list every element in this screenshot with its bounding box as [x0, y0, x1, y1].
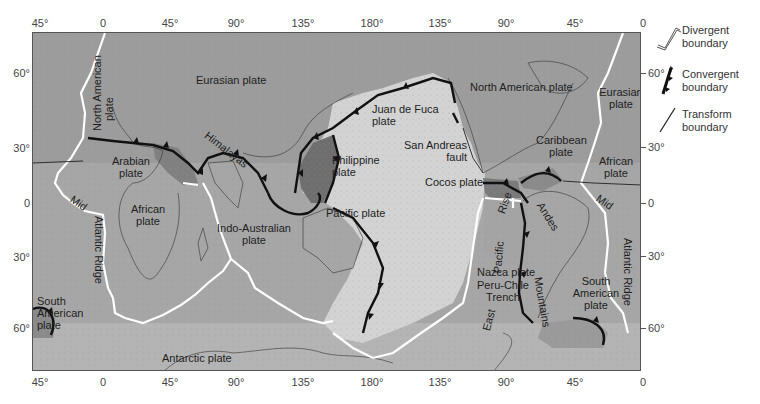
lon-tick: 45° [567, 17, 584, 29]
lat-tick: 30° [648, 250, 665, 262]
legend-transform: Transformboundary [655, 104, 760, 138]
lon-tick: 135° [429, 376, 452, 388]
transform-boundary-icon [655, 104, 681, 136]
label-arabian-plate: Arabianplate [106, 155, 156, 179]
lon-tick: 0 [640, 376, 646, 388]
lon-tick: 45° [32, 17, 49, 29]
label-north-american-plate-left: North American [91, 55, 103, 131]
lat-tick: 60° [648, 322, 665, 334]
label-south-american-plate-left: SouthAmericanplate [37, 295, 83, 331]
lat-tick: 0 [2, 197, 30, 209]
label-juan-de-fuca-plate: Juan de Fucaplate [372, 103, 439, 127]
label-san-andreas-fault: San Andreasfault [397, 139, 467, 163]
label-peru-chile-trench: Peru-ChileTrench [473, 279, 533, 303]
lat-tick: 30° [2, 142, 30, 154]
lat-tick: 60° [2, 67, 30, 79]
lon-tick: 90° [228, 17, 245, 29]
divergent-boundary-icon [655, 24, 681, 54]
lat-tick-mark [641, 256, 646, 257]
lat-tick-mark [641, 328, 646, 329]
legend-divergent: Divergentboundary [655, 24, 760, 58]
label-eurasian-plate: Eurasian plate [196, 74, 266, 86]
lon-tick: 90° [498, 17, 515, 29]
label-african-plate-left: Africanplate [123, 203, 173, 227]
lon-tick: 90° [228, 376, 245, 388]
label-pacific-plate: Pacific plate [326, 207, 385, 219]
lat-tick: 30° [648, 141, 665, 153]
label-atlantic-ridge-right: Atlantic Ridge [622, 238, 634, 306]
legend-transform-text: Transformboundary [682, 108, 732, 133]
lon-tick: 0 [100, 376, 106, 388]
lon-tick: 180° [361, 17, 384, 29]
label-eurasian-plate-right: Eurasianplate [596, 86, 641, 110]
legend-divergent-text: Divergentboundary [682, 24, 729, 49]
lat-tick: 60° [2, 322, 30, 334]
lat-tick: 0 [648, 197, 654, 209]
label-african-plate-right: Africanplate [595, 155, 637, 179]
lon-tick: 45° [32, 376, 49, 388]
lon-tick: 180° [361, 376, 384, 388]
tectonic-plate-map: North American plate Eurasian plate Arab… [32, 32, 641, 371]
label-philippine-plate: Philippineplate [332, 154, 380, 178]
lon-tick: 45° [162, 376, 179, 388]
label-nazca-plate: Nazca plate [477, 266, 535, 278]
lon-tick: 45° [162, 17, 179, 29]
label-atlantic-ridge-left: Atlantic Ridge [93, 216, 105, 284]
lon-tick: 0 [640, 17, 646, 29]
lon-tick: 90° [498, 376, 515, 388]
lat-tick-mark [641, 147, 646, 148]
lon-tick: 135° [429, 17, 452, 29]
legend-convergent: Convergentboundary [655, 64, 760, 98]
label-cocos-plate: Cocos plate [425, 176, 483, 188]
lon-tick: 45° [567, 376, 584, 388]
lat-tick-mark [641, 73, 646, 74]
label-antarctic-plate-left: Antarctic plate [162, 352, 232, 364]
convergent-boundary-icon [655, 64, 681, 96]
label-indo-australian-plate: Indo-Australianplate [199, 222, 309, 246]
label-north-american-plate-right: North American plate [470, 81, 573, 93]
lon-tick: 0 [100, 17, 106, 29]
label-south-american-plate-right: SouthAmericanplate [566, 275, 626, 311]
lat-tick: 30° [2, 251, 30, 263]
lon-tick: 135° [292, 376, 315, 388]
lon-tick: 135° [292, 17, 315, 29]
label-caribbean-plate: Caribbeanplate [536, 134, 586, 158]
label-north-american-plate-left-2: plate [103, 97, 115, 121]
legend-convergent-text: Convergentboundary [682, 68, 739, 93]
lat-tick-mark [641, 203, 646, 204]
